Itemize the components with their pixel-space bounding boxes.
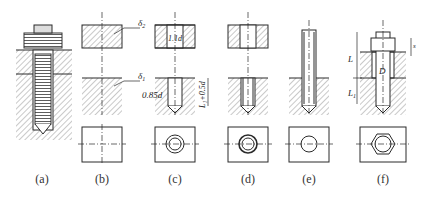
panel-e [285,20,333,162]
caption-c: (c) [155,172,195,187]
label-clearance: 1.1d [168,34,183,43]
caption-b: (b) [82,172,122,187]
panel-b [78,12,140,165]
label-drill-depth: L₁+0.5d [198,80,207,109]
label-D: D [378,66,386,76]
label-s: s [413,42,416,50]
label-L: L [347,54,353,64]
caption-a: (a) [22,172,62,187]
label-delta1: δ1 [138,71,145,82]
technical-drawing: δ2 δ1 1.1d 0.85d L₁+0.5d L L1 D s (a) (b… [0,0,428,197]
label-delta2: δ2 [138,18,145,29]
label-L1: L1 [347,88,356,99]
panel-d [224,12,272,162]
caption-f: (f) [363,172,403,187]
panel-f [353,20,411,162]
caption-d: (d) [228,172,268,187]
caption-e: (e) [289,172,329,187]
figure-canvas: δ2 δ1 1.1d 0.85d L₁+0.5d L L1 D s [0,0,428,197]
label-drill-diameter: 0.85d [142,90,163,100]
panel-a [16,25,72,140]
